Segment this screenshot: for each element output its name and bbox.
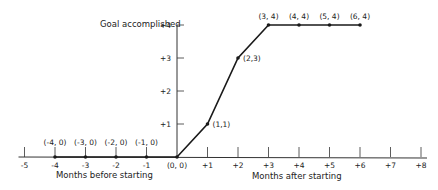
data-point-label: (-4, 0) [44,138,67,147]
x-tick-label: +5 [324,161,335,170]
data-point-label: (2,3) [243,54,261,63]
axes: -5-4-3-2-1+1+2+3+4+5+6+7+8+1+2+3+4 [19,21,428,170]
data-point-marker [175,155,179,159]
data-point-marker [206,122,210,126]
data-point-marker [53,155,57,159]
data-point-label: (1,1) [213,120,231,129]
x-tick-label: +4 [293,161,304,170]
data-point-marker [328,23,332,27]
data-point-label: (3, 4) [258,12,278,21]
x-tick-label: +2 [232,161,243,170]
y-tick-label: +1 [160,120,171,129]
x-tick-label: -2 [112,161,120,170]
y-axis-title: Goal accomplished [100,19,181,29]
x-tick-label: -1 [143,161,151,170]
data-point-marker [358,23,362,27]
y-tick-label: +3 [160,54,171,63]
data-point-label: (-3, 0) [74,138,97,147]
data-point-marker [114,155,118,159]
x-tick-label: +7 [385,161,396,170]
x-tick-label: -5 [21,161,29,170]
data-point-label: (0, 0) [167,161,187,170]
progress-line [55,25,360,157]
data-point-label: (5, 4) [319,12,339,21]
x-tick-label: +3 [263,161,274,170]
data-labels: (-4, 0)(-3, 0)(-2, 0)(-1, 0)(0, 0)(1,1)(… [44,12,371,170]
x-tick-label: +1 [202,161,213,170]
x-tick-label: -4 [51,161,59,170]
data-point-marker [145,155,149,159]
data-point-label: (-2, 0) [105,138,128,147]
data-point-label: (4, 4) [289,12,309,21]
x-axis-title-after: Months after starting [252,171,342,181]
data-point-marker [84,155,88,159]
x-axis-title-before: Months before starting [56,170,153,180]
data-point-marker [267,23,271,27]
data-point-marker [236,56,240,60]
x-tick-label: +6 [354,161,365,170]
data-point-label: (6, 4) [350,12,370,21]
data-point-label: (-1, 0) [135,138,158,147]
y-tick-label: +2 [160,87,171,96]
x-tick-label: +8 [415,161,426,170]
goal-progress-chart: -5-4-3-2-1+1+2+3+4+5+6+7+8+1+2+3+4 (-4, … [0,0,438,190]
data-point-marker [297,23,301,27]
x-tick-label: -3 [82,161,90,170]
data-series [53,23,362,159]
